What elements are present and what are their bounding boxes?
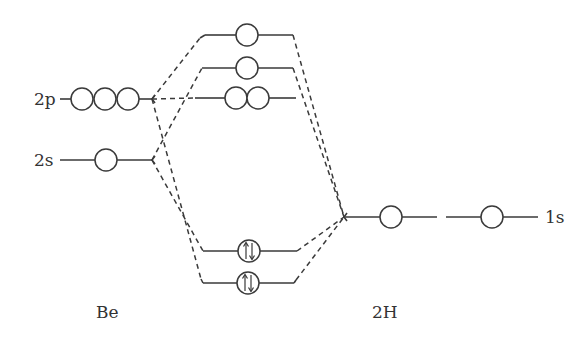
mo-orbital-circle xyxy=(237,272,259,294)
mo-bonding-lower xyxy=(201,272,296,294)
be-2p-orbital-circle xyxy=(117,88,139,110)
h-1s-label: 1s xyxy=(545,207,565,227)
mo-orbital-circle xyxy=(236,57,258,79)
be-2p-level: 2p xyxy=(34,88,155,110)
h-1s-levels: 1s xyxy=(344,206,565,228)
be-2p-label: 2p xyxy=(34,89,56,109)
mo-antibonding-upper xyxy=(200,24,293,46)
mo-bonding-upper xyxy=(203,240,297,262)
h-correlation-lines xyxy=(293,35,344,280)
be-2s-label: 2s xyxy=(34,150,54,170)
h-1s-orbital-circle xyxy=(481,206,503,228)
mo-orbital-circle xyxy=(238,240,260,262)
be-2p-orbital-circle xyxy=(94,88,116,110)
mo-orbital-circle xyxy=(225,87,247,109)
mo-nonbonding-2p xyxy=(195,87,296,109)
mo-orbital-circle xyxy=(236,24,258,46)
mo-diagram: 2p 2s xyxy=(0,0,583,339)
be-atom-label: Be xyxy=(96,302,119,322)
h-atom-label: 2H xyxy=(372,302,398,322)
be-correlation-lines xyxy=(152,38,203,279)
mo-antibonding-lower xyxy=(202,57,293,79)
be-2s-level: 2s xyxy=(34,149,155,171)
be-2s-orbital-circle xyxy=(95,149,117,171)
mo-orbital-circle xyxy=(247,87,269,109)
h-1s-orbital-circle xyxy=(380,206,402,228)
be-2p-orbital-circle xyxy=(71,88,93,110)
